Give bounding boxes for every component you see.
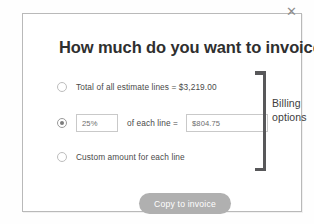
right-bracket-icon bbox=[255, 71, 266, 171]
radio-percent-each-line[interactable] bbox=[57, 118, 67, 128]
close-icon[interactable]: ✕ bbox=[284, 4, 299, 19]
option-label-total-all-lines: Total of all estimate lines = $3,219.00 bbox=[76, 82, 217, 92]
option-row-custom-amount[interactable]: Custom amount for each line bbox=[57, 147, 185, 167]
screenshot-root: How much do you want to invoice? Total o… bbox=[0, 0, 314, 224]
option-row-total-all-lines[interactable]: Total of all estimate lines = $3,219.00 bbox=[57, 77, 217, 97]
page-title: How much do you want to invoice? bbox=[59, 38, 309, 57]
of-each-line-label: of each line = bbox=[127, 118, 178, 128]
annotation-line-1: Billing bbox=[272, 96, 314, 110]
bracket-spine bbox=[263, 71, 267, 171]
option-row-percent-each-line[interactable]: 25% of each line = $804.75 bbox=[57, 112, 268, 134]
option-label-custom-amount: Custom amount for each line bbox=[76, 152, 185, 162]
percent-input[interactable]: 25% bbox=[76, 114, 118, 132]
invoice-amount-dialog: How much do you want to invoice? Total o… bbox=[22, 13, 302, 212]
copy-to-invoice-button[interactable]: Copy to invoice bbox=[139, 193, 231, 214]
radio-custom-amount[interactable] bbox=[57, 152, 67, 162]
billing-options-annotation: Billing options bbox=[272, 96, 314, 124]
bracket-bottom-arm bbox=[255, 168, 266, 172]
radio-total-all-lines[interactable] bbox=[57, 82, 67, 92]
annotation-line-2: options bbox=[272, 110, 314, 124]
